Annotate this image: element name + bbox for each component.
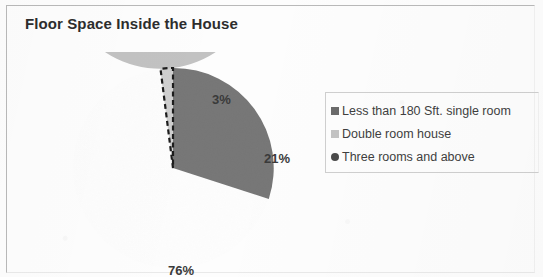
pie-label-three-rooms-and-above: 3% xyxy=(212,92,231,107)
pie-label-double-room-house: 76% xyxy=(168,263,194,277)
legend-item-three-rooms-and-above: Three rooms and above xyxy=(331,145,538,168)
pie-label-less-than-180-sft: 21% xyxy=(264,151,290,166)
pie-chart: 3% 21% 76% xyxy=(62,52,292,277)
legend-label-less-than-180-sft: Less than 180 Sft. single room xyxy=(342,104,511,118)
circle-marker-icon xyxy=(331,153,339,161)
chart-title: Floor Space Inside the House xyxy=(25,15,238,32)
legend-label-double-room-house: Double room house xyxy=(342,127,451,141)
pie-chart-svg xyxy=(62,52,292,277)
legend-item-double-room-house: Double room house xyxy=(331,122,538,145)
chart-legend: Less than 180 Sft. single room Double ro… xyxy=(325,92,539,173)
legend-item-less-than-180-sft: Less than 180 Sft. single room xyxy=(331,99,538,122)
chart-screenshot: Floor Space Inside the House xyxy=(0,0,543,277)
pie-scan-grain xyxy=(73,68,273,268)
square-marker-icon xyxy=(331,130,339,138)
square-marker-icon xyxy=(331,107,339,115)
legend-label-three-rooms-and-above: Three rooms and above xyxy=(342,150,475,164)
